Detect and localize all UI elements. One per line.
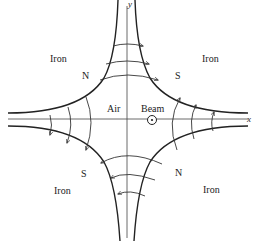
field-line-left-2 [67,107,71,143]
field-line-left-3 [86,97,91,150]
field-line-right-2 [191,105,196,139]
pole-bottom-right-boundary [134,126,248,241]
label-iron-bottom-left: Iron [54,185,71,196]
label-iron-top-right: Iron [202,53,219,64]
beam-out-of-page-icon [148,116,157,125]
label-air: Air [107,103,121,114]
pole-label-bottom-right: N [175,167,182,178]
label-iron-top-left: Iron [50,53,67,64]
pole-label-bottom-left: S [81,168,87,179]
pole-label-top-right: S [175,70,181,81]
field-line-left-1 [50,115,52,135]
field-line-bottom-2 [111,174,155,180]
y-axis-label: y [127,0,132,9]
field-line-top-1 [113,44,143,46]
pole-label-top-left: N [82,70,89,81]
label-iron-bottom-right: Iron [203,184,220,195]
quadrupole-diagram: x y Iron Iron Iron Iron Air Beam N S S N [0,0,256,241]
field-line-right-1 [172,98,180,150]
pole-top-right-boundary [135,0,248,113]
x-axis-label: x [246,114,251,124]
pole-bottom-left-boundary [8,126,120,241]
field-line-bottom-3 [118,192,145,196]
label-beam: Beam [141,103,165,114]
